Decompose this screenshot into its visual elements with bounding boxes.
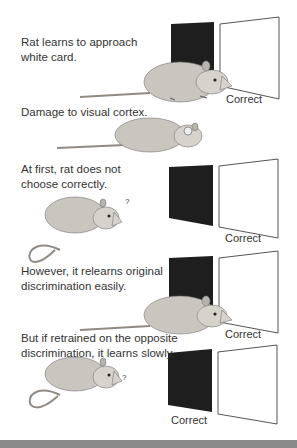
caption-panel-1-line-1: Rat learns to approach xyxy=(21,35,137,49)
illustration-layer xyxy=(0,0,297,448)
rat-illustration-lesioned xyxy=(57,118,202,152)
correct-label: Correct xyxy=(171,414,207,426)
caption-panel-5-line-2: discrimination, it learns slowly. xyxy=(21,346,175,360)
caption-panel-3-line-2: choose correctly. xyxy=(21,177,107,191)
question-mark: ? xyxy=(125,197,129,206)
caption-panel-1-line-2: white card. xyxy=(21,50,77,64)
caption-panel-3-line-1: At first, rat does not xyxy=(21,162,121,176)
question-mark: ? xyxy=(122,373,126,382)
bottom-divider-band xyxy=(0,440,297,448)
rat-illustration xyxy=(80,61,232,102)
rat-illustration-confused xyxy=(29,197,122,262)
correct-label: Correct xyxy=(225,328,261,340)
caption-panel-4-line-1: However, it relearns original xyxy=(21,264,163,278)
correct-label: Correct xyxy=(225,232,261,244)
white-card xyxy=(218,345,277,424)
rat-illustration xyxy=(80,296,232,334)
rat-illustration-confused xyxy=(30,357,122,407)
caption-panel-4-line-2: discrimination easily. xyxy=(21,279,126,293)
black-card xyxy=(169,165,213,226)
caption-panel-2: Damage to visual cortex. xyxy=(21,105,148,119)
caption-panel-5-line-1: But if retrained on the opposite xyxy=(21,331,178,345)
white-card xyxy=(219,159,278,238)
correct-label: Correct xyxy=(226,93,262,105)
